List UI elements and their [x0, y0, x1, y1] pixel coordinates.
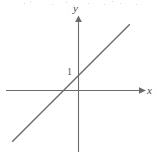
scan-noise-dot — [136, 4, 137, 5]
scan-noise-dot — [52, 4, 53, 5]
x-axis-label: x — [147, 85, 152, 96]
scan-noise-dot — [24, 3, 25, 4]
scan-noise-dot — [104, 4, 105, 5]
plotted-line-y-equals-x-plus-1 — [12, 24, 130, 142]
scan-noise-dot — [112, 1, 113, 2]
scan-noise-dot — [30, 1, 31, 2]
scan-noise-dot — [74, 5, 75, 6]
y-axis-arrow-icon — [75, 16, 82, 23]
x-axis-arrow-icon — [139, 87, 146, 94]
scan-noise-dot — [66, 2, 67, 3]
scan-noise-dot — [88, 3, 89, 4]
y-intercept-tick-label: 1 — [67, 67, 72, 77]
coordinate-plane-figure: y x 1 — [0, 0, 157, 152]
graph-canvas — [0, 0, 157, 152]
scan-noise-dot — [120, 3, 121, 4]
